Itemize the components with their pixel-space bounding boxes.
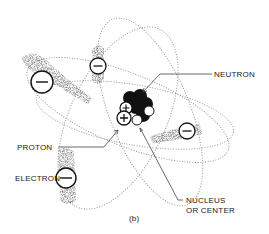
- proton-label: PROTON: [17, 143, 52, 152]
- atom-diagram: NEUTRON PROTON ELECTRON NUCLEUS OR CENTE…: [0, 0, 269, 234]
- nucleus-label-line1: NUCLEUS: [186, 196, 226, 205]
- nucleus-label-line2: OR CENTER: [186, 206, 235, 215]
- neutron-label: NEUTRON: [214, 70, 255, 79]
- proton-leader: [58, 130, 118, 147]
- figure-caption: (b): [129, 214, 139, 223]
- atom-illustration: [0, 0, 269, 234]
- nucleus: [117, 89, 154, 125]
- electron-label: ELECTRON: [15, 174, 60, 183]
